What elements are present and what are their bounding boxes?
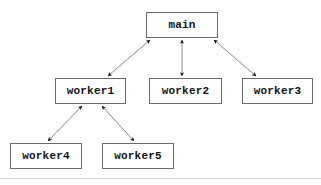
node-worker3[interactable]: worker3 [242,78,313,104]
node-label-worker2: worker2 [162,86,210,97]
edge-main-worker1 [108,40,150,76]
node-worker1[interactable]: worker1 [55,78,126,104]
node-main[interactable]: main [146,12,218,38]
node-worker2[interactable]: worker2 [149,78,222,104]
edge-main-worker3 [214,40,256,76]
diagram-canvas: mainworker1worker2worker3worker4worker5 [0,0,321,185]
node-label-worker5: worker5 [114,151,162,162]
node-label-worker3: worker3 [254,86,302,97]
node-worker4[interactable]: worker4 [10,143,82,169]
edge-worker1-worker4 [48,106,82,141]
node-worker5[interactable]: worker5 [102,143,174,169]
node-label-worker1: worker1 [67,86,115,97]
node-label-main: main [168,20,195,31]
node-label-worker4: worker4 [22,151,70,162]
page-edge-line [0,178,321,179]
edge-worker1-worker5 [102,106,134,141]
